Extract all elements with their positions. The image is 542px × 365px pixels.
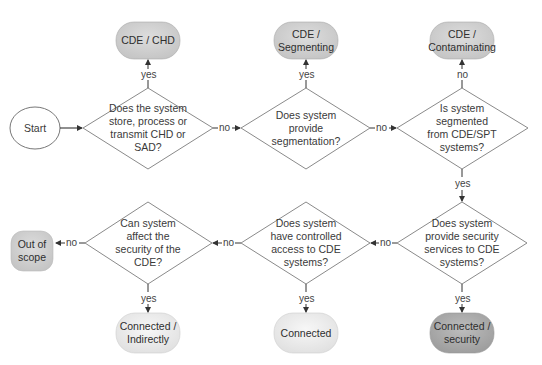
edge-label-d5-yes: yes <box>298 293 316 304</box>
terminal-connected: Connected <box>274 313 338 353</box>
edge-label-d2-yes: yes <box>298 69 316 80</box>
edge-label-d5-no: no <box>222 237 235 248</box>
terminal-cde-contaminating: CDE / Contaminating <box>428 22 496 59</box>
decision-d5-label: Does system have controlled access to CD… <box>256 215 356 271</box>
decision-d1-label: Does the system store, process or transm… <box>98 100 198 156</box>
edge-label-d1-no: no <box>218 122 231 133</box>
edge-label-d4-no: no <box>379 237 392 248</box>
edge-label-d6-no: no <box>65 237 78 248</box>
edge-label-d3-yes: yes <box>454 178 472 189</box>
edge-label-d2-no: no <box>375 122 388 133</box>
edge-label-d6-yes: yes <box>140 293 158 304</box>
decision-d4-label: Does system provide security services to… <box>412 215 512 271</box>
start-node: Start <box>10 107 60 149</box>
terminal-cde-segmenting: CDE / Segmenting <box>274 22 338 59</box>
edge-label-d4-yes: yes <box>454 293 472 304</box>
decision-d3-label: Is system segmented from CDE/SPT systems… <box>412 100 512 156</box>
terminal-out-of-scope: Out of scope <box>11 231 53 271</box>
decision-d2-label: Does system provide segmentation? <box>256 100 356 156</box>
edge-label-d1-yes: yes <box>140 69 158 80</box>
terminal-cde-chd: CDE / CHD <box>116 22 180 59</box>
terminal-connected-security: Connected / security <box>430 313 494 353</box>
decision-d6-label: Can system affect the security of the CD… <box>98 215 198 271</box>
terminal-connected-indirectly: Connected / Indirectly <box>116 313 180 353</box>
edge-label-d3-no: no <box>456 69 469 80</box>
